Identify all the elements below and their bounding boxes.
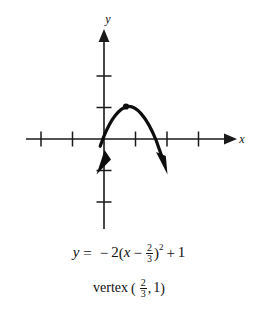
parabola-curve bbox=[100, 106, 161, 155]
graph-area: x y bbox=[0, 0, 258, 232]
equation-h-denominator: 3 bbox=[146, 253, 153, 264]
coordinate-plane-svg: x y bbox=[0, 0, 258, 232]
equation-expression: y=−2(x−23)2+1 bbox=[73, 243, 186, 264]
equation-coefficient: 2 bbox=[111, 244, 119, 260]
vertex-caption: vertex(23,1) bbox=[0, 278, 258, 299]
equation-inner-minus-sign: − bbox=[133, 246, 141, 261]
equation-plus-sign: + bbox=[166, 246, 174, 261]
equation-h-fraction: 23 bbox=[146, 243, 153, 264]
equation-lhs: y bbox=[73, 244, 80, 260]
vertex-y-value: 1 bbox=[153, 280, 160, 295]
x-axis-arrowhead bbox=[224, 134, 237, 145]
vertex-close-paren: ) bbox=[160, 282, 165, 296]
vertex-label: vertex bbox=[93, 280, 128, 295]
y-axis-arrowhead bbox=[99, 29, 110, 42]
equation-minus-sign: − bbox=[100, 246, 108, 261]
vertex-expression: vertex(23,1) bbox=[93, 278, 165, 299]
vertex-x-fraction: 23 bbox=[140, 278, 147, 299]
equation-exponent: 2 bbox=[159, 243, 164, 252]
equation-constant: 1 bbox=[178, 244, 186, 260]
x-axis-label: x bbox=[238, 132, 245, 146]
vertex-point-marker bbox=[123, 103, 129, 109]
vertex-x-denominator: 3 bbox=[140, 288, 147, 299]
vertex-open-paren: ( bbox=[131, 282, 136, 296]
vertex-x-numerator: 2 bbox=[140, 278, 147, 288]
equation-h-numerator: 2 bbox=[146, 243, 153, 253]
vertex-comma: , bbox=[148, 282, 152, 296]
parabola-right-arrowhead bbox=[156, 152, 168, 175]
equation-caption: y=−2(x−23)2+1 bbox=[0, 243, 258, 264]
equation-equals-sign: = bbox=[83, 246, 91, 261]
figure-page: x y y=−2(x−23)2+1 vertex(23,1) bbox=[0, 0, 258, 310]
y-axis-label: y bbox=[104, 12, 111, 26]
equation-variable: x bbox=[124, 244, 131, 260]
